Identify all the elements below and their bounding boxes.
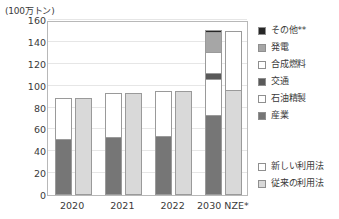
legend-label: 産業	[271, 111, 289, 120]
legend-label: 新しい利用法	[271, 162, 324, 171]
legend-usage-types: 新しい利用法従来の利用法	[258, 158, 336, 192]
bar-segment	[75, 98, 92, 195]
bar-segment	[105, 138, 122, 195]
bar-new-uses	[55, 98, 72, 195]
legend-label: 発電	[271, 43, 289, 52]
legend-sector-item[interactable]: その他**	[258, 22, 336, 39]
legend-sectors: その他**発電合成燃料交通石油精製産業	[258, 22, 336, 124]
legend-sector-item[interactable]: 産業	[258, 107, 336, 124]
bar-new-uses	[105, 93, 122, 195]
y-tick-label: 40	[4, 148, 46, 158]
bar-segment	[205, 116, 222, 195]
bar-new-uses	[205, 30, 222, 195]
legend-swatch-icon	[258, 112, 266, 120]
legend-sector-item[interactable]: 発電	[258, 39, 336, 56]
legend-label: 合成燃料	[271, 60, 306, 69]
bar-segment	[205, 53, 222, 74]
y-tick-label: 60	[4, 126, 46, 136]
gridline	[48, 19, 247, 20]
bar-segment	[105, 93, 122, 138]
legend-swatch-icon	[258, 180, 266, 188]
legend-swatch-icon	[258, 78, 266, 86]
legend-sector-item[interactable]: 交通	[258, 73, 336, 90]
y-tick-label: 20	[4, 169, 46, 179]
legend-usage-item[interactable]: 従来の利用法	[258, 175, 336, 192]
legend-sector-item[interactable]: 合成燃料	[258, 56, 336, 73]
bar-conventional	[75, 98, 92, 195]
bar-segment	[155, 91, 172, 137]
legend-swatch-icon	[258, 163, 266, 171]
bar-new-uses	[155, 91, 172, 195]
bar-segment	[205, 33, 222, 53]
chart-figure: (100万トン) 020406080100120140160 202020212…	[0, 0, 339, 219]
bar-segment	[55, 140, 72, 195]
bar-segment	[225, 91, 242, 195]
legend-swatch-icon	[258, 44, 266, 52]
legend-swatch-icon	[258, 61, 266, 69]
bar-conventional	[175, 91, 192, 195]
y-tick-label: 140	[4, 38, 46, 48]
legend-sector-item[interactable]: 石油精製	[258, 90, 336, 107]
legend-label: その他**	[271, 26, 306, 35]
x-tick-label: 2030 NZE*	[183, 200, 263, 211]
bar-segment	[155, 137, 172, 195]
legend-label: 従来の利用法	[271, 179, 324, 188]
legend-swatch-icon	[258, 27, 266, 35]
bar-segment	[205, 80, 222, 116]
plot-area	[47, 21, 248, 196]
legend-label: 交通	[271, 77, 289, 86]
bar-segment	[225, 31, 242, 91]
y-tick-label: 100	[4, 82, 46, 92]
legend-usage-item[interactable]: 新しい利用法	[258, 158, 336, 175]
legend-label: 石油精製	[271, 94, 306, 103]
y-tick-label: 160	[4, 16, 46, 26]
bar-segment	[125, 93, 142, 195]
legend-swatch-icon	[258, 95, 266, 103]
bar-segment	[175, 91, 192, 195]
bar-conventional	[225, 31, 242, 195]
bar-segment	[55, 98, 72, 141]
y-tick-label: 120	[4, 60, 46, 70]
bar-conventional	[125, 93, 142, 195]
y-tick-label: 80	[4, 104, 46, 114]
